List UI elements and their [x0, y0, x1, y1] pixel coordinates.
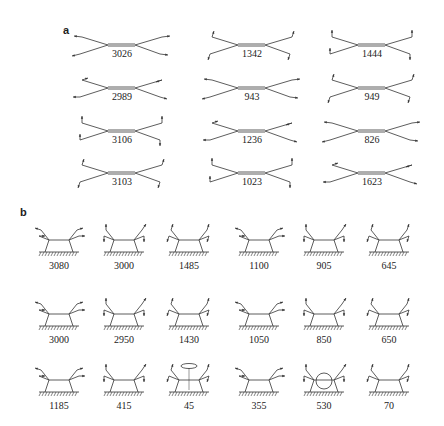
frequency-label: 3080 — [29, 260, 89, 271]
surface-adsorbate-icon — [165, 362, 225, 402]
surface-adsorbate-icon — [35, 362, 95, 402]
frequency-label: 1623 — [342, 176, 402, 187]
frequency-label: 943 — [222, 91, 282, 102]
frequency-label: 1430 — [159, 334, 219, 345]
surface-adsorbate-icon — [100, 362, 160, 402]
surface-adsorbate-icon — [300, 296, 360, 336]
frequency-label: 1485 — [159, 260, 219, 271]
frequency-label: 2950 — [94, 334, 154, 345]
frequency-label: 850 — [294, 334, 354, 345]
frequency-label: 650 — [359, 334, 419, 345]
frequency-label: 1185 — [29, 400, 89, 411]
frequency-label: 1236 — [222, 134, 282, 145]
surface-adsorbate-icon — [235, 222, 295, 262]
frequency-label: 3000 — [29, 334, 89, 345]
frequency-label: 826 — [342, 134, 402, 145]
frequency-label: 949 — [342, 91, 402, 102]
frequency-label: 1050 — [229, 334, 289, 345]
frequency-label: 355 — [229, 400, 289, 411]
surface-adsorbate-icon — [100, 222, 160, 262]
frequency-label: 1023 — [222, 176, 282, 187]
surface-adsorbate-icon — [235, 296, 295, 336]
frequency-label: 1100 — [229, 260, 289, 271]
surface-adsorbate-icon — [100, 296, 160, 336]
surface-adsorbate-icon — [235, 362, 295, 402]
frequency-label: 3026 — [92, 48, 152, 59]
surface-adsorbate-icon — [35, 222, 95, 262]
surface-adsorbate-icon — [365, 296, 425, 336]
surface-adsorbate-icon — [365, 362, 425, 402]
surface-adsorbate-icon — [165, 296, 225, 336]
surface-adsorbate-icon — [300, 222, 360, 262]
frequency-label: 2989 — [92, 91, 152, 102]
frequency-label: 1342 — [222, 48, 282, 59]
frequency-label: 1444 — [342, 48, 402, 59]
frequency-label: 3000 — [94, 260, 154, 271]
surface-adsorbate-icon — [300, 362, 360, 402]
frequency-label: 3106 — [92, 134, 152, 145]
frequency-label: 530 — [294, 400, 354, 411]
frequency-label: 45 — [159, 400, 219, 411]
panel-b-label: b — [20, 206, 27, 218]
frequency-label: 645 — [359, 260, 419, 271]
panel-a-label: a — [63, 24, 69, 36]
surface-adsorbate-icon — [165, 222, 225, 262]
surface-adsorbate-icon — [365, 222, 425, 262]
frequency-label: 70 — [359, 400, 419, 411]
frequency-label: 3103 — [92, 176, 152, 187]
frequency-label: 415 — [94, 400, 154, 411]
surface-adsorbate-icon — [35, 296, 95, 336]
frequency-label: 905 — [294, 260, 354, 271]
